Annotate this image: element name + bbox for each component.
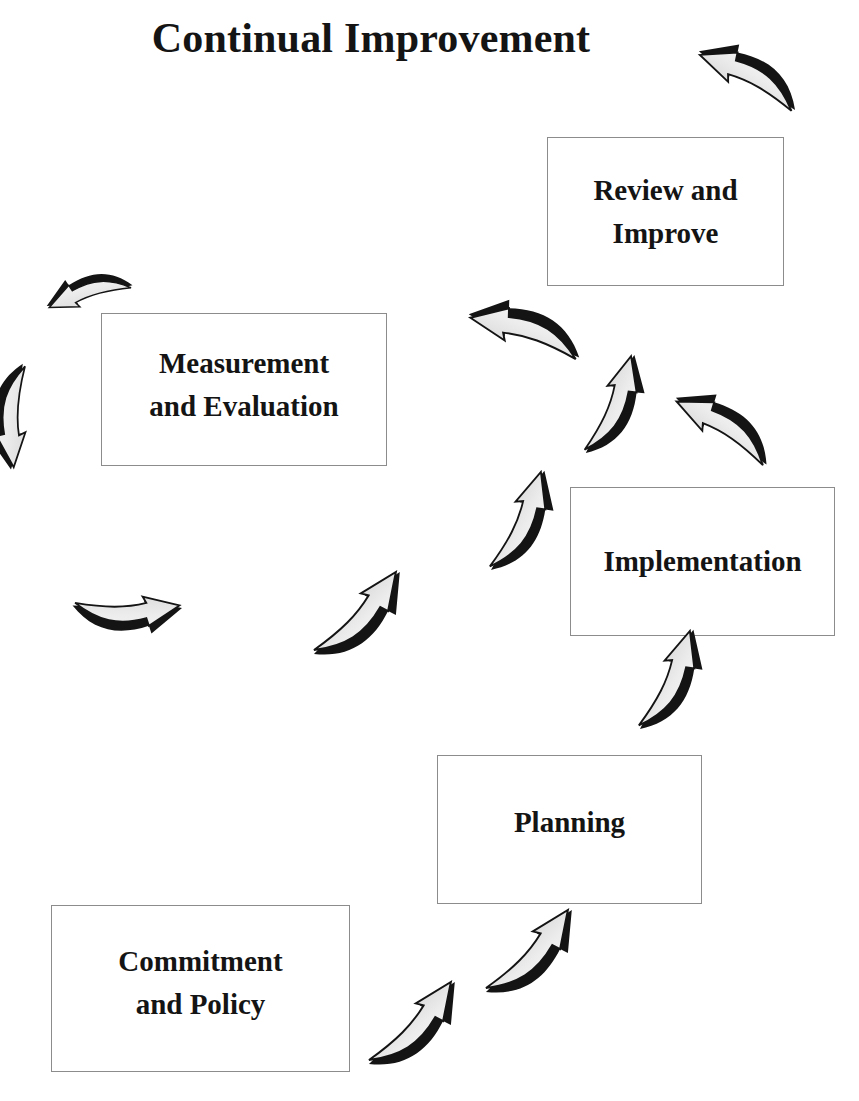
arrow-center-to-review-icon [560, 355, 660, 454]
arrow-implementation-to-center-icon [676, 384, 767, 478]
arrow-commitment-to-planning-1-icon [369, 982, 455, 1064]
arrows-layer [0, 0, 859, 1101]
arrow-review-continue-icon [699, 31, 796, 130]
arrow-loop-to-center-icon [467, 471, 569, 571]
arrow-planning-to-implementation-icon [616, 630, 718, 730]
arrow-measurement-loop-left-icon [47, 253, 133, 338]
arrow-center-to-measurement-icon [469, 279, 580, 392]
arrow-measurement-loop-up-right-icon [314, 572, 400, 654]
arrow-measurement-loop-right-icon [72, 552, 182, 662]
arrow-commitment-to-planning-2-icon [486, 910, 572, 992]
arrow-measurement-loop-down-icon [0, 363, 70, 469]
